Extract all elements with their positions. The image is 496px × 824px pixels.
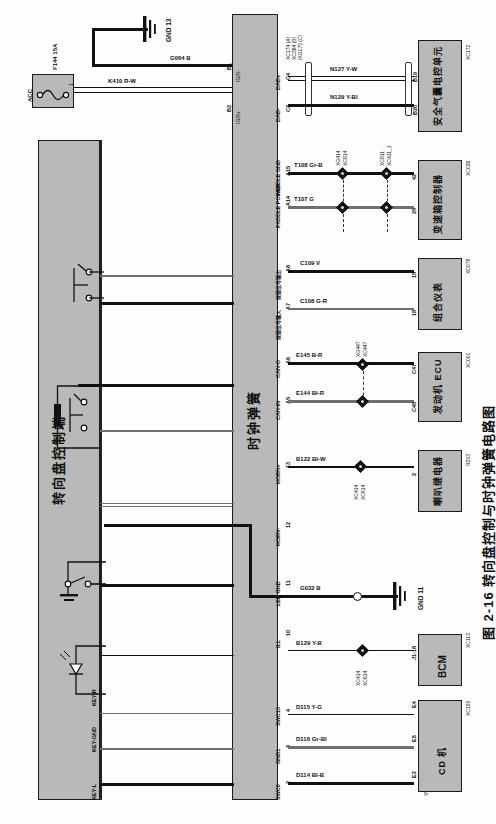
ladder-wire-2 (100, 302, 234, 305)
splice-label-xc811: XC811 (380, 151, 385, 166)
left-module-bus (100, 140, 102, 800)
airbag-control-unit-code: XC172 (466, 45, 471, 60)
instrument-cluster-code: XC078 (466, 259, 471, 274)
airbag-control-unit-label: 安全气囊电控单元 (434, 46, 443, 126)
splice-label-xc447: XC447 (363, 342, 368, 357)
fuse-symbol-icon (32, 74, 74, 108)
clock-spring-pin-12: 12 (286, 522, 292, 528)
wire-g032-label: G032 B (300, 585, 321, 591)
ground-symbol-11-icon (390, 580, 420, 612)
clock-spring-pin-b2: B2 (227, 105, 233, 112)
splice-label-xc614-ill: XC614 (363, 671, 368, 686)
cluster-pin-15: 15 (412, 272, 418, 278)
transmission-controller-code: XC036 (466, 161, 471, 176)
ecu-pin-c45: C45 (412, 402, 418, 412)
clock-spring-pin-a6-name: CAN-O (276, 360, 282, 378)
splice-label-xc614-horn: XC614 (361, 485, 366, 500)
fuse-rating-label: F144 15A (52, 44, 58, 70)
splice-dash-4 (387, 214, 388, 232)
clock-spring-supply-bottom-label: IG/B+ (236, 111, 241, 124)
wire-horn-minus-top (104, 524, 252, 527)
wire-d115-label: D115 Y-G (296, 704, 322, 710)
connector-pin-oval-b19 (405, 62, 412, 116)
wire-g064-label: G064 B (170, 55, 191, 61)
wire-e144-label: E144 BI-R (296, 390, 324, 396)
ladder-wire-5 (100, 503, 234, 504)
wire-d116 (288, 746, 414, 749)
wire-c108 (288, 308, 414, 310)
trans-pin-29: 29 (412, 208, 418, 214)
trans-pin-42: 42 (412, 174, 418, 180)
bcm-code: XC113 (466, 633, 471, 648)
clock-spring-pin-4-name: SWC13 (276, 707, 282, 726)
wire-n129-label: N129 Y-BI (330, 94, 358, 100)
splice-label-xc414-horn: XC414 (354, 485, 359, 500)
ladder-wire-9 (100, 713, 234, 714)
fuse-pin-right-label: 1 (68, 83, 74, 86)
pin-key-gnd-label: KEY-GND (92, 727, 98, 752)
ladder-wire-8 (100, 655, 234, 656)
wire-n129 (288, 104, 414, 107)
wire-k410-lower (74, 92, 232, 93)
clock-spring-pin-11: 11 (286, 580, 292, 586)
clock-spring-pin-c3-name: DAB- (276, 108, 282, 122)
clock-spring-pin-a14-name: PADDLE POWER (276, 183, 282, 228)
engine-ecu-code: XC001 (466, 353, 471, 368)
ladder-wire-10 (100, 748, 234, 750)
figure-caption: 图 2-16 转向盘控制与时钟弹簧电路图 (482, 405, 495, 640)
ground-symbol-13-icon (140, 14, 168, 44)
wire-d114 (288, 782, 414, 785)
clock-spring-pin-a14: A14 (286, 196, 292, 206)
splice-xg414-xc814-2 (336, 201, 349, 214)
instrument-cluster-label: 组合仪表 (434, 282, 443, 322)
wire-d114-label: D114 BI-B (296, 772, 324, 778)
clock-spring-pin-a5-name: CAN-IN (276, 401, 282, 420)
wire-t107 (288, 206, 414, 209)
cd-pin-e3: E3 (412, 771, 418, 778)
splice-xg447-xc447-2 (356, 395, 369, 408)
wire-e145 (288, 362, 414, 365)
wire-d116-label: D116 Gr-BI (296, 736, 327, 742)
wire-e144 (288, 400, 414, 403)
horn-relay-label: 喇叭继电器 (434, 456, 443, 506)
splice-xc811-xc411-2 (380, 201, 393, 214)
clock-spring-pin-10-name: ILL (276, 640, 282, 648)
splice-dash-3 (343, 214, 344, 232)
clock-spring-pin-c4-name: DAB+ (276, 75, 282, 90)
splice-label-xg414: XG414 (336, 150, 341, 166)
clock-spring-pin-13-name: HORN+ (276, 465, 282, 484)
splice-label-xg447: XG447 (356, 341, 361, 357)
splice-xg414-xc814 (336, 167, 349, 180)
cd-pin-e4: E4 (412, 701, 418, 708)
splice-xc414-xc614-ill (356, 644, 369, 657)
wire-g032 (288, 595, 398, 598)
clock-spring-pin-a7-name: 按键信号输入 (276, 310, 281, 340)
wire-t108 (288, 172, 414, 175)
transmission-controller-label: 变速箱控制器 (434, 174, 443, 234)
splice-xc811-xc411 (380, 167, 393, 180)
wire-b129 (288, 650, 414, 651)
ladder-wire-3 (100, 384, 234, 387)
wire-b129-label: B129 Y-B (296, 640, 322, 646)
steering-switch-2-icon (48, 378, 106, 456)
clock-spring-supply-top-label: IG/B- (236, 70, 241, 82)
acc-source-label: ACC (27, 89, 33, 102)
ground-11-label: GND 11 (418, 587, 425, 610)
steering-switch-1-icon (58, 258, 104, 312)
cd-player-label: CD 机 (438, 747, 447, 776)
splice-label-xc814: XC814 (343, 151, 348, 166)
clock-spring-pin-10: 10 (286, 630, 292, 636)
horn-relay-pin-2: 2 (412, 473, 418, 476)
horn-relay-code: R203 (466, 454, 471, 466)
wiring-diagram-page: 1 ACC F144 15A K410 R-W G064 B GND 13 转向… (0, 0, 496, 824)
ladder-wire-6 (100, 506, 234, 507)
pin-key-r-label: KEY-R (92, 689, 98, 706)
clock-spring-pin-12-name: HORN- (276, 528, 282, 546)
clock-spring-pin-b1: B1 (227, 63, 233, 70)
pin-key-l-label: KEY-L (92, 784, 98, 800)
bcm-label: BCM (438, 655, 448, 678)
wire-junction-node (353, 592, 362, 601)
wire-g064-horizontal (92, 64, 232, 67)
splice-xg447-xc447 (356, 358, 369, 371)
wire-t108-label: T108 Gr-B (294, 162, 323, 168)
